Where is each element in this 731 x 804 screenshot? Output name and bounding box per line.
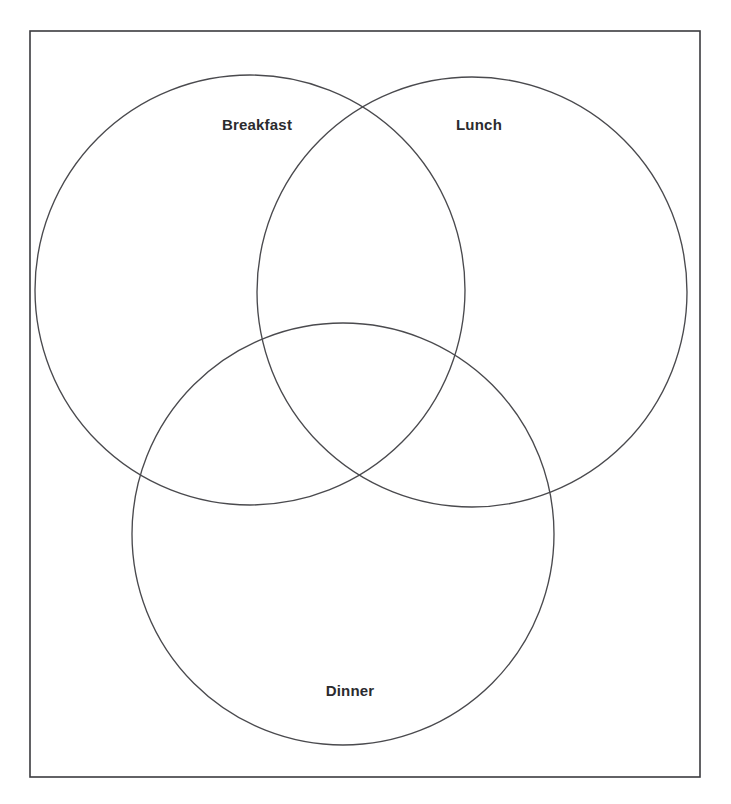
venn-label-dinner: Dinner <box>326 683 375 698</box>
venn-diagram-canvas: Breakfast Lunch Dinner <box>0 0 731 804</box>
venn-label-lunch: Lunch <box>456 117 502 132</box>
venn-label-breakfast: Breakfast <box>222 117 292 132</box>
diagram-border <box>30 31 700 777</box>
venn-circle-lunch[interactable] <box>257 77 687 507</box>
venn-circle-breakfast[interactable] <box>35 75 465 505</box>
